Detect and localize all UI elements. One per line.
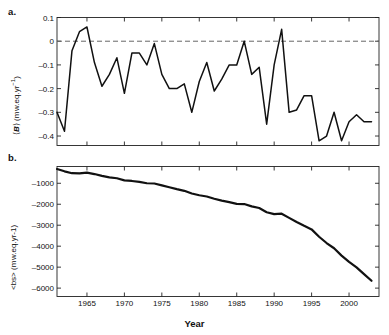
panel-b-frame [57, 167, 379, 297]
y-tick-label: –0.1 [14, 60, 54, 69]
figure-container: a. b. ⟨Ḃ⟩ (m w.eq.yr−1) <bs> (m w.eq.yr… [0, 0, 389, 335]
y-tick-label: –3000 [14, 221, 54, 230]
y-tick-label: –0.4 [14, 132, 54, 141]
x-tick-label: 1990 [265, 299, 283, 308]
panel-b-data-line [57, 169, 372, 281]
x-tick-label: 1985 [228, 299, 246, 308]
y-tick-label: –2000 [14, 200, 54, 209]
x-tick-label: 1970 [115, 299, 133, 308]
panel-b-group [57, 167, 379, 297]
y-tick-label: –0.2 [14, 84, 54, 93]
y-tick-label: –0.3 [14, 108, 54, 117]
x-tick-label: 1975 [153, 299, 171, 308]
y-tick-label: –1000 [14, 179, 54, 188]
x-tick-label: 1995 [303, 299, 321, 308]
y-tick-label: –5000 [14, 263, 54, 272]
x-tick-label: 1980 [190, 299, 208, 308]
chart-canvas [0, 0, 389, 335]
y-tick-label: –4000 [14, 242, 54, 251]
y-tick-label: 0 [14, 37, 54, 46]
panel-a-data-line [57, 27, 372, 141]
x-tick-label: 2000 [340, 299, 358, 308]
panel-a-group [57, 18, 379, 146]
x-tick-label: 1965 [78, 299, 96, 308]
y-tick-label: –6000 [14, 284, 54, 293]
y-tick-label: 0.1 [14, 13, 54, 22]
